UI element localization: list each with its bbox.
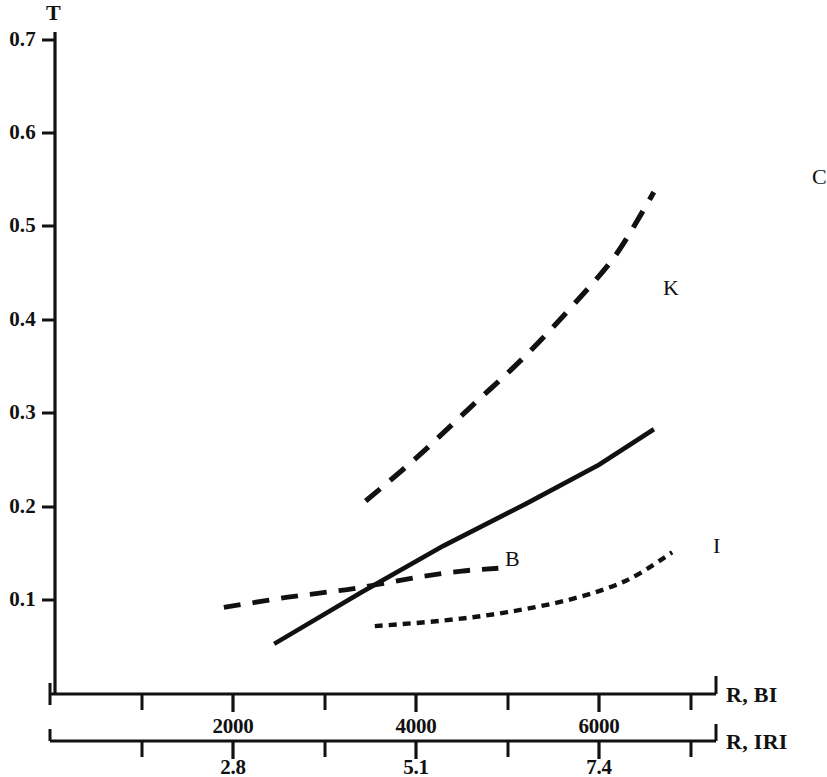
y-tick-label-0-3: 0.3 — [0, 402, 36, 423]
x-axis-iri-title: R, IRI — [726, 731, 788, 753]
series-i-line — [375, 552, 672, 626]
x-tick-label-bi-6000: 6000 — [549, 716, 649, 737]
y-tick-label-0-1: 0.1 — [0, 589, 36, 610]
series-label-k: K — [663, 277, 679, 299]
y-tick-label-0-7: 0.7 — [0, 29, 36, 50]
x-tick-label-bi-4000: 4000 — [366, 716, 466, 737]
y-tick-label-0-4: 0.4 — [0, 309, 36, 330]
series-b-line — [224, 568, 499, 607]
y-tick-label-0-2: 0.2 — [0, 496, 36, 517]
x-axis-bi-title: R, BI — [726, 684, 778, 706]
y-tick-label-0-6: 0.6 — [0, 122, 36, 143]
series-label-i: I — [713, 535, 720, 557]
x-tick-label-iri-5-1: 5.1 — [366, 757, 466, 777]
y-axis-title: T — [46, 2, 61, 24]
y-tick-label-0-5: 0.5 — [0, 215, 36, 236]
series-label-c: C — [812, 166, 827, 188]
chart-figure: T 0.7 0.6 0.5 0.4 0.3 0.2 0.1 2000 4000 … — [0, 0, 827, 777]
chart-canvas — [0, 0, 827, 777]
x-tick-label-iri-7-4: 7.4 — [549, 757, 649, 777]
x-tick-label-iri-2-8: 2.8 — [183, 757, 283, 777]
series-label-b: B — [505, 548, 520, 570]
x-tick-label-bi-2000: 2000 — [183, 716, 283, 737]
x-axis-bi-group — [50, 676, 716, 712]
y-axis-group — [42, 32, 55, 694]
series-k-line — [274, 429, 654, 644]
